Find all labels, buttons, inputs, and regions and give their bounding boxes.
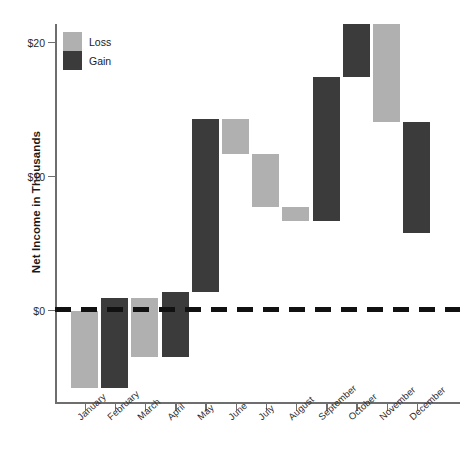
bar-november[interactable] [373, 24, 400, 122]
legend-label: Loss [89, 36, 111, 48]
y-axis-line [55, 24, 57, 403]
x-axis-tick-label: March [135, 396, 162, 422]
bar-january[interactable] [71, 311, 98, 389]
zero-reference-line [55, 307, 460, 312]
bar-april[interactable] [162, 292, 189, 358]
legend-item-gain[interactable]: Gain [63, 51, 111, 70]
x-axis-tick-label: May [195, 402, 216, 422]
bar-july[interactable] [252, 154, 279, 208]
x-axis-tick-label: February [105, 388, 141, 422]
legend-label: Gain [89, 55, 111, 67]
x-axis-tick-label: April [165, 401, 187, 422]
x-axis-tick-label: July [256, 402, 276, 422]
y-axis-tick [48, 176, 56, 178]
legend-item-loss[interactable]: Loss [63, 32, 111, 51]
bar-october[interactable] [343, 24, 370, 78]
legend-swatch-gain [63, 51, 82, 70]
bar-december[interactable] [403, 122, 430, 233]
y-axis-tick [48, 42, 56, 44]
bar-september[interactable] [313, 77, 340, 220]
chart-legend: LossGain [63, 32, 111, 70]
x-axis-tick-label: January [75, 391, 108, 422]
y-axis-tick-label: $10 [27, 171, 45, 183]
bar-may[interactable] [192, 119, 219, 292]
y-axis-tick-label: $20 [27, 37, 45, 49]
y-axis-title: Net Income in Thousands [30, 102, 42, 302]
x-axis-tick-label: August [286, 394, 316, 422]
y-axis-tick-label: $0 [33, 305, 45, 317]
bar-august[interactable] [282, 207, 309, 220]
waterfall-chart: Net Income in Thousands $0$10$20 LossGai… [0, 0, 466, 469]
bar-june[interactable] [222, 119, 249, 154]
legend-swatch-loss [63, 32, 82, 51]
